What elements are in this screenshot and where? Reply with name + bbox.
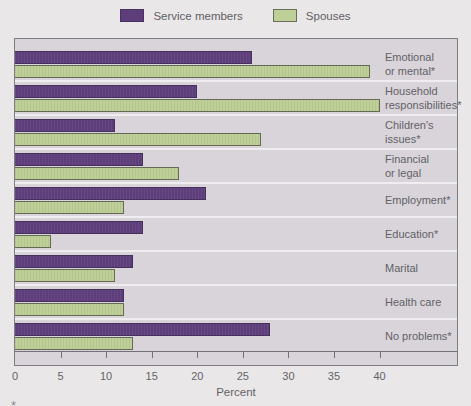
- axis-tick-label: 0: [12, 370, 18, 382]
- x-axis-title: Percent: [14, 386, 458, 398]
- category-band: Education*: [15, 218, 457, 252]
- legend: Service members Spouses: [0, 9, 471, 22]
- bar-service-members: [15, 51, 252, 64]
- axis-tick-label: 20: [191, 370, 203, 382]
- category-band: Marital: [15, 252, 457, 286]
- plot-area: Emotional or mental*Household responsibi…: [14, 38, 458, 366]
- bar-spouses: [15, 133, 261, 146]
- axis-tick-label: 5: [58, 370, 64, 382]
- bar-spouses: [15, 167, 179, 180]
- category-band: Children's issues*: [15, 116, 457, 150]
- axis-tick-label: 10: [100, 370, 112, 382]
- category-label: Financial or legal: [385, 152, 429, 181]
- axis-tick: [380, 352, 381, 358]
- legend-label-spouses: Spouses: [306, 10, 351, 22]
- x-axis: [15, 351, 457, 365]
- bar-service-members: [15, 255, 133, 268]
- axis-tick-label: 25: [237, 370, 249, 382]
- bar-service-members: [15, 221, 143, 234]
- bar-service-members: [15, 153, 143, 166]
- bar-bands: Emotional or mental*Household responsibi…: [15, 48, 457, 352]
- service-members-swatch: [120, 9, 144, 22]
- footnote-marker: *: [11, 398, 16, 406]
- axis-tick-label: 30: [282, 370, 294, 382]
- axis-tick: [61, 352, 62, 358]
- bar-spouses: [15, 99, 380, 112]
- category-band: Health care: [15, 286, 457, 320]
- bar-spouses: [15, 65, 370, 78]
- axis-tick: [334, 352, 335, 358]
- axis-tick: [197, 352, 198, 358]
- axis-tick: [106, 352, 107, 358]
- bar-service-members: [15, 323, 270, 336]
- category-band: Financial or legal: [15, 150, 457, 184]
- bar-spouses: [15, 235, 51, 248]
- category-label: Health care: [385, 295, 441, 309]
- axis-tick-label: 15: [146, 370, 158, 382]
- axis-tick-label: 35: [328, 370, 340, 382]
- legend-label-service-members: Service members: [153, 10, 242, 22]
- axis-tick: [288, 352, 289, 358]
- legend-item-spouses: Spouses: [273, 9, 351, 22]
- axis-tick-label: 40: [373, 370, 385, 382]
- bar-spouses: [15, 337, 133, 350]
- category-label: Marital: [385, 261, 418, 275]
- axis-tick: [152, 352, 153, 358]
- bar-service-members: [15, 289, 124, 302]
- bar-spouses: [15, 201, 124, 214]
- category-label: Children's issues*: [385, 118, 434, 147]
- bar-service-members: [15, 85, 197, 98]
- category-band: No problems*: [15, 320, 457, 352]
- category-band: Employment*: [15, 184, 457, 218]
- bar-spouses: [15, 269, 115, 282]
- category-label: Employment*: [385, 193, 450, 207]
- category-label: Emotional or mental*: [385, 50, 435, 79]
- category-band: Emotional or mental*: [15, 48, 457, 82]
- bar-service-members: [15, 187, 206, 200]
- axis-tick: [243, 352, 244, 358]
- bar-spouses: [15, 303, 124, 316]
- category-label: Household responsibilities*: [385, 84, 461, 113]
- category-label: Education*: [385, 227, 438, 241]
- legend-item-service-members: Service members: [120, 9, 242, 22]
- category-band: Household responsibilities*: [15, 82, 457, 116]
- spouses-swatch: [273, 9, 297, 22]
- category-label: No problems*: [385, 329, 452, 343]
- x-axis-tick-labels: 0510152025303540: [15, 370, 457, 382]
- bar-service-members: [15, 119, 115, 132]
